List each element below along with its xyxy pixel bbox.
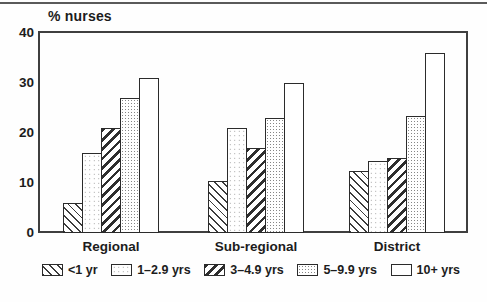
legend-label: 1–2.9 yrs (137, 263, 191, 277)
chart-title: % nurses (48, 8, 112, 24)
legend-label: <1 yr (68, 263, 98, 277)
y-tick-label: 30 (6, 75, 34, 91)
legend-item: 10+ yrs (391, 263, 460, 277)
legend-label: 5–9.9 yrs (323, 263, 377, 277)
bar (406, 116, 426, 234)
legend-item: 1–2.9 yrs (111, 263, 191, 277)
y-tick-label: 40 (6, 25, 34, 41)
bar (63, 203, 83, 233)
bar (425, 53, 445, 233)
y-tick-label: 20 (6, 125, 34, 141)
legend-swatch-hatch-heavy (204, 264, 225, 276)
legend-item: <1 yr (42, 263, 98, 277)
bar (265, 118, 285, 233)
bar (227, 128, 247, 233)
bar (120, 98, 140, 233)
legend-item: 3–4.9 yrs (204, 263, 284, 277)
figure-top-rule (0, 2, 487, 4)
nurses-bar-chart-figure: % nurses 010203040RegionalSub-regionalDi… (0, 0, 487, 302)
legend-swatch-dots-sparse (111, 264, 132, 276)
bar (208, 181, 228, 234)
legend-label: 3–4.9 yrs (230, 263, 284, 277)
legend-swatch-hatch-back (42, 264, 63, 276)
bar (284, 83, 304, 233)
y-tick-label: 10 (6, 175, 34, 191)
x-category-label: Regional (82, 239, 139, 254)
legend-swatch-dots-dense (297, 264, 318, 276)
bar (368, 161, 388, 234)
legend-item: 5–9.9 yrs (297, 263, 377, 277)
legend-swatch-plain (391, 264, 412, 276)
bar (101, 128, 121, 233)
bar (139, 78, 159, 233)
x-category-label: District (374, 239, 421, 254)
bar (82, 153, 102, 233)
x-category-label: Sub-regional (215, 239, 298, 254)
bar (246, 148, 266, 233)
legend: <1 yr1–2.9 yrs3–4.9 yrs5–9.9 yrs10+ yrs (42, 263, 460, 277)
legend-label: 10+ yrs (417, 263, 460, 277)
y-tick-label: 0 (6, 225, 34, 241)
bar (387, 158, 407, 233)
bar (349, 171, 369, 234)
